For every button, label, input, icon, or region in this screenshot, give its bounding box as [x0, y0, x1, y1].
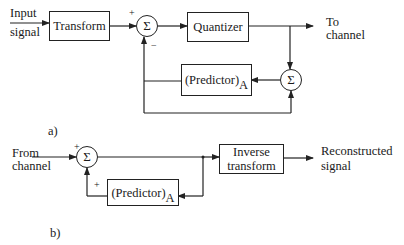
- input-signal-label: Input: [10, 6, 36, 21]
- summer-a1-minus: −: [151, 41, 157, 51]
- summer-a2: Σ: [280, 69, 302, 91]
- from-channel-label-line2: channel: [12, 159, 51, 174]
- predictor-a-text: (Predictor): [185, 73, 239, 87]
- transform-block: Transform: [49, 11, 110, 41]
- inverse-transform-line2: transform: [227, 159, 276, 173]
- inverse-transform-block: Inverse transform: [219, 144, 284, 174]
- summer-b-plus-top: +: [74, 142, 80, 152]
- diagram-a-label: a): [48, 124, 58, 139]
- predictor-b-subscript: A: [166, 191, 175, 205]
- quantizer-block: Quantizer: [187, 12, 249, 42]
- reconstructed-signal-label: Reconstructed: [321, 144, 393, 159]
- predictor-block-a: (Predictor)A: [181, 64, 252, 96]
- summer-a1-plus: +: [129, 8, 135, 18]
- summer-b-plus-bottom: +: [94, 180, 100, 190]
- summer-a1: Σ: [136, 15, 158, 37]
- diagram-b-label: b): [50, 226, 60, 241]
- predictor-b-text: (Predictor): [111, 186, 165, 200]
- input-signal-label-line2: signal: [10, 25, 40, 40]
- to-channel-label-line2: channel: [326, 28, 365, 43]
- inverse-transform-line1: Inverse: [233, 145, 270, 159]
- reconstructed-signal-label-line2: signal: [321, 159, 351, 174]
- predictor-a-subscript: A: [239, 78, 248, 92]
- predictor-block-b: (Predictor)A: [107, 179, 179, 206]
